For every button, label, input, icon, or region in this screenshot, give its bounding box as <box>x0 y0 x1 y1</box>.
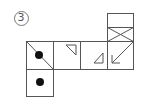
face-dot-diagonal <box>27 42 54 70</box>
face-dot <box>27 70 54 97</box>
face-triangle-lower <box>81 42 108 70</box>
dot-icon <box>35 51 43 59</box>
cube-net-diagram <box>0 0 142 106</box>
triangle-icon <box>94 53 103 63</box>
arrow-icon <box>112 42 134 64</box>
triangle-icon <box>66 45 76 55</box>
face-top-blank <box>108 14 134 28</box>
face-top-x <box>108 28 134 42</box>
face-arrow <box>108 42 134 70</box>
dot-icon <box>36 78 44 86</box>
face-triangle-upper <box>54 42 81 70</box>
